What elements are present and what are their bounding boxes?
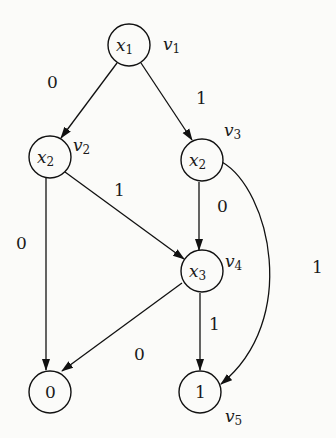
- edge-v1-v2: [61, 63, 117, 138]
- diagram-canvas: x1 x2 x2 x3 0 1 v1 v2 v3 v4 v5 0 1 0 1 0…: [0, 0, 336, 438]
- terminal-0-label: 0: [45, 382, 56, 402]
- edge-label-v4-v5: 1: [209, 314, 220, 334]
- bdd-diagram: x1 x2 x2 x3 0 1 v1 v2 v3 v4 v5 0 1 0 1 0…: [0, 0, 336, 438]
- edge-label-v1-v2: 0: [47, 72, 58, 92]
- name-v3: v3: [224, 120, 241, 142]
- edge-label-v4-t0: 0: [134, 344, 145, 364]
- edge-label-v2-v4: 1: [114, 180, 125, 200]
- edge-label-v2-t0: 0: [16, 233, 27, 253]
- edge-label-v3-v4: 0: [217, 196, 228, 216]
- edge-label-v3-v5: 1: [312, 257, 323, 277]
- name-v4: v4: [225, 251, 243, 273]
- terminal-1-label: 1: [195, 382, 206, 402]
- name-v1: v1: [163, 34, 180, 56]
- edge-label-v1-v3: 1: [196, 88, 207, 108]
- edge-v4-t0: [62, 283, 182, 371]
- edge-v1-v3: [141, 63, 192, 140]
- edge-v3-v5: [221, 162, 270, 384]
- name-v2: v2: [73, 135, 90, 157]
- name-v5: v5: [225, 406, 242, 428]
